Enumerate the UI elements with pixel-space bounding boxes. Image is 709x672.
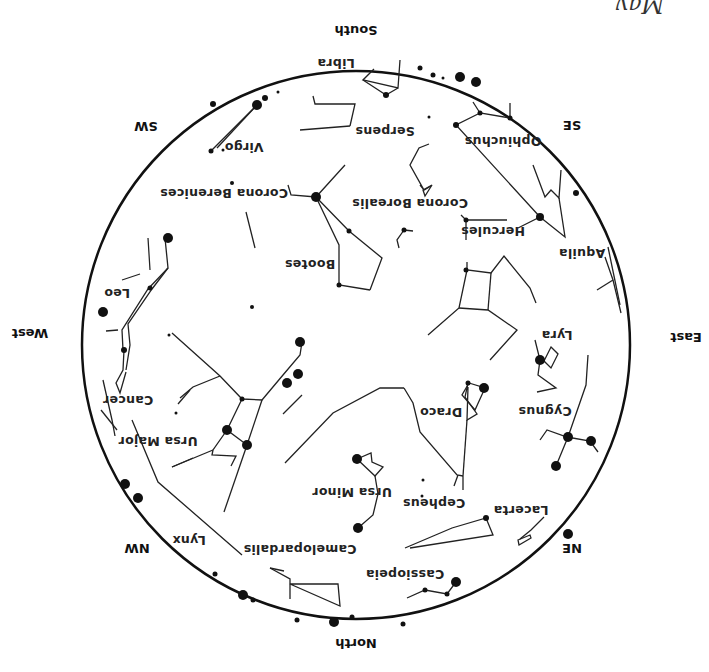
label-virgo: Virgo — [224, 140, 263, 155]
label-cepheus: Cepheus — [403, 496, 465, 511]
direction-sw: SW — [134, 119, 158, 134]
constellation-labels: Libra Serpens Ophiuchus Virgo Corona Ber… — [102, 56, 605, 582]
horizon-circle — [82, 71, 630, 619]
label-cygnus: Cygnus — [518, 404, 571, 419]
direction-south: South — [334, 23, 377, 38]
label-bootes: Bootes — [285, 257, 335, 272]
title-partial: May — [615, 0, 665, 18]
direction-west: West — [12, 326, 49, 341]
direction-se: SE — [563, 118, 581, 133]
label-corona-berenices: Corona Berenices — [160, 186, 288, 201]
label-camelopardalis: Camelopardalis — [243, 542, 356, 557]
label-ursa-minor: Ursa Minor — [312, 485, 392, 500]
label-ursa-major: Ursa Major — [118, 434, 198, 449]
direction-nw: NW — [124, 541, 149, 556]
label-cancer: Cancer — [102, 393, 153, 408]
direction-north: North — [335, 636, 377, 651]
label-cassiopeia: Cassiopeia — [366, 567, 445, 582]
label-aquila: Aquila — [559, 246, 605, 261]
label-libra: Libra — [317, 56, 354, 71]
label-corona-borealis: Corona Borealis — [352, 196, 468, 211]
label-lacerta: Lacerta — [494, 503, 549, 518]
label-hercules: Hercules — [461, 224, 525, 239]
label-leo: Leo — [104, 286, 130, 301]
direction-east: East — [670, 330, 702, 345]
label-serpens: Serpens — [355, 124, 415, 139]
label-ophiuchus: Ophiuchus — [464, 134, 541, 149]
star-chart: South SE East NE North NW West SW Libra … — [0, 0, 709, 672]
direction-ne: NE — [562, 541, 582, 556]
label-draco: Draco — [420, 405, 463, 420]
label-lyra: Lyra — [541, 328, 572, 343]
label-lynx: Lynx — [172, 533, 205, 548]
